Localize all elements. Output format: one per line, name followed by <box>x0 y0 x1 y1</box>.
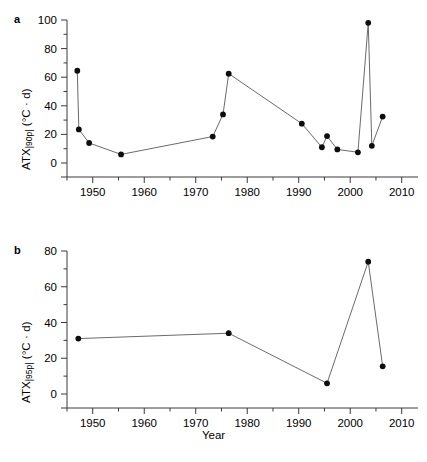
x-tick-label: 2000 <box>337 186 363 198</box>
x-tick-label: 1980 <box>234 186 260 198</box>
x-tick-label: 2010 <box>389 417 415 429</box>
y-tick-label: 100 <box>38 14 57 26</box>
data-point <box>210 134 216 140</box>
x-tick-label: 1990 <box>286 417 312 429</box>
data-point <box>365 20 371 26</box>
y-tick-label: 0 <box>51 388 57 400</box>
panel-a: a ATX|90p| (°C · d) 02040608010019501960… <box>0 0 427 231</box>
data-point <box>355 149 361 155</box>
data-point <box>74 68 80 74</box>
figure-container: a ATX|90p| (°C · d) 02040608010019501960… <box>0 0 427 462</box>
x-tick-label: 2000 <box>337 417 363 429</box>
data-point <box>324 133 330 139</box>
data-point <box>226 71 232 77</box>
x-axis-label: Year <box>0 429 427 441</box>
data-point <box>220 111 226 117</box>
x-tick-label: 1970 <box>183 417 209 429</box>
y-tick-label: 40 <box>44 100 57 112</box>
x-tick-label: 2010 <box>389 186 415 198</box>
data-point <box>365 259 371 265</box>
data-point <box>319 144 325 150</box>
data-point <box>380 363 386 369</box>
data-point <box>299 121 305 127</box>
data-point <box>226 330 232 336</box>
data-point <box>334 147 340 153</box>
x-tick-label: 1990 <box>286 186 312 198</box>
y-tick-label: 20 <box>44 128 57 140</box>
data-point <box>118 152 124 158</box>
panel-b: b ATX|95p| (°C · d) 02040608019501960197… <box>0 231 427 462</box>
data-point <box>380 114 386 120</box>
series-line <box>77 23 382 155</box>
y-tick-label: 60 <box>44 281 57 293</box>
y-tick-label: 80 <box>44 43 57 55</box>
data-point <box>369 143 375 149</box>
panel-b-plot: 0204060801950196019701980199020002010 <box>0 231 427 462</box>
x-tick-label: 1960 <box>131 417 157 429</box>
data-point <box>76 126 82 132</box>
data-point <box>86 140 92 146</box>
x-tick-label: 1980 <box>234 417 260 429</box>
panel-a-plot: 0204060801001950196019701980199020002010 <box>0 0 427 231</box>
y-tick-label: 60 <box>44 71 57 83</box>
series-line <box>78 262 382 384</box>
y-tick-label: 20 <box>44 352 57 364</box>
y-tick-label: 0 <box>51 157 57 169</box>
y-tick-label: 40 <box>44 317 57 329</box>
data-point <box>75 336 81 342</box>
data-point <box>324 380 330 386</box>
x-tick-label: 1960 <box>131 186 157 198</box>
y-tick-label: 80 <box>44 245 57 257</box>
x-tick-label: 1950 <box>80 186 106 198</box>
x-tick-label: 1950 <box>80 417 106 429</box>
x-tick-label: 1970 <box>183 186 209 198</box>
